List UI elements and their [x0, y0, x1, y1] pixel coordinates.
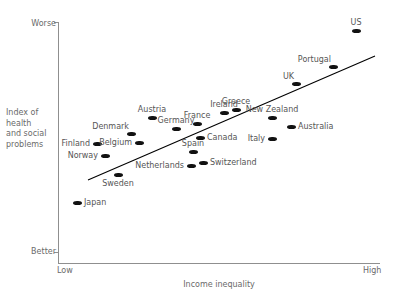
data-point-marker [196, 136, 205, 141]
y-axis-title-line-3: and social [6, 129, 54, 140]
data-point-label: Finland [61, 139, 90, 148]
data-point-marker [135, 141, 144, 146]
x-axis-tick-label-high: High [363, 266, 381, 276]
data-point-label: US [351, 18, 362, 27]
data-point-marker [114, 173, 123, 178]
data-point-marker [232, 108, 241, 113]
y-axis-title-line-1: Index of [6, 108, 54, 119]
data-point-label: Austria [138, 105, 166, 114]
data-point-label: Norway [68, 151, 98, 160]
data-point-label: Canada [207, 133, 237, 142]
data-point-marker [189, 150, 198, 155]
data-point-label: Japan [84, 198, 106, 207]
y-axis-tick-label-worse: Worse [31, 19, 56, 29]
data-point-label: Italy [248, 134, 265, 143]
data-point-marker [268, 116, 277, 121]
data-point-label: France [184, 111, 211, 120]
data-point-marker [199, 161, 208, 166]
data-point-marker [268, 137, 277, 142]
data-point-marker [127, 132, 136, 137]
data-point-marker [73, 201, 82, 206]
data-point-marker [329, 65, 338, 70]
x-axis-tick-label-low: Low [57, 266, 73, 276]
data-point-label: Australia [298, 122, 333, 131]
data-point-label: Sweden [102, 179, 134, 188]
data-point-marker [352, 29, 361, 34]
data-point-marker [292, 82, 301, 87]
data-point-marker [220, 111, 229, 116]
x-axis-line [58, 263, 380, 264]
data-point-marker [287, 125, 296, 130]
data-point-label: Switzerland [210, 158, 257, 167]
data-point-label: Spain [182, 139, 204, 148]
data-point-marker [193, 122, 202, 127]
data-point-label: UK [283, 72, 294, 81]
data-point-label: Portugal [298, 55, 331, 64]
data-point-marker [187, 164, 196, 169]
x-axis-title: Income inequality [58, 280, 380, 289]
data-point-label: Denmark [92, 122, 129, 131]
data-point-marker [172, 127, 181, 132]
y-axis-line [58, 22, 59, 263]
y-axis-tick-label-better: Better [31, 247, 56, 257]
data-point-label: Belgium [99, 138, 132, 147]
y-axis-title-line-2: health [6, 119, 54, 130]
y-axis-title-line-4: problems [6, 140, 54, 151]
y-axis-title: Index of health and social problems [6, 108, 54, 150]
data-point-marker [148, 116, 157, 121]
data-point-label: Netherlands [135, 161, 184, 170]
scatter-plot-figure: Worse Better Low High Index of health an… [0, 0, 394, 295]
data-point-label: New Zealand [246, 105, 299, 114]
data-point-marker [101, 154, 110, 159]
